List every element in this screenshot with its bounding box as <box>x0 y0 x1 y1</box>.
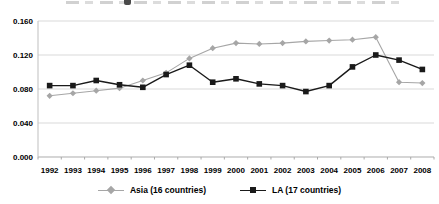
x-tick-label: 2008 <box>413 166 431 175</box>
legend-item-la: LA (17 countries) <box>240 185 341 195</box>
y-tick-label: 0.000 <box>13 153 34 162</box>
asia-data-point <box>349 37 355 43</box>
la-data-point <box>350 64 356 70</box>
x-tick-label: 2003 <box>297 166 315 175</box>
x-tick-label: 2005 <box>344 166 362 175</box>
chart-canvas: 0.0000.0400.0800.1200.160199219931994199… <box>0 0 439 204</box>
asia-data-point <box>326 37 332 43</box>
legend-label-la: LA (17 countries) <box>272 185 341 195</box>
la-data-point <box>326 83 332 89</box>
asia-data-point <box>47 93 53 99</box>
y-tick-label: 0.120 <box>13 51 34 60</box>
asia-data-point <box>70 90 76 96</box>
la-data-point <box>373 52 379 58</box>
la-data-point <box>280 83 286 89</box>
la-data-point <box>233 76 239 82</box>
x-tick-label: 2007 <box>390 166 408 175</box>
asia-data-point <box>256 41 262 47</box>
la-data-point <box>210 79 216 85</box>
asia-data-point <box>233 40 239 46</box>
x-tick-label: 2004 <box>320 166 338 175</box>
la-data-point <box>47 83 53 89</box>
la-data-point <box>70 83 76 89</box>
la-data-point <box>187 62 193 68</box>
asia-data-point <box>279 40 285 46</box>
asia-data-point <box>396 79 402 85</box>
x-tick-label: 2006 <box>367 166 385 175</box>
la-square-marker-icon <box>240 186 266 195</box>
y-axis-labels: 0.0000.0400.0800.1200.160 <box>13 17 34 162</box>
x-tick-label: 1995 <box>111 166 129 175</box>
y-tick-label: 0.040 <box>13 119 34 128</box>
x-tick-label: 2000 <box>227 166 245 175</box>
chart-legend: Asia (16 countries) LA (17 countries) <box>0 181 439 199</box>
series-la <box>47 52 425 94</box>
la-data-point <box>163 72 169 78</box>
asia-data-point <box>373 34 379 40</box>
asia-data-point <box>186 55 192 61</box>
asia-data-point <box>140 77 146 83</box>
asia-data-point <box>303 38 309 44</box>
x-tick-label: 1994 <box>87 166 105 175</box>
x-tick-label: 1992 <box>41 166 59 175</box>
x-tick-label: 1998 <box>181 166 199 175</box>
asia-data-point <box>210 45 216 51</box>
x-axis-labels: 1992199319941995199619971998199920002001… <box>41 166 432 175</box>
chart-screenshot: 0.0000.0400.0800.1200.160199219931994199… <box>0 0 439 204</box>
la-data-point <box>256 81 262 87</box>
la-data-point <box>303 89 309 95</box>
y-tick-label: 0.080 <box>13 85 34 94</box>
la-data-point <box>396 57 402 63</box>
legend-item-asia: Asia (16 countries) <box>98 185 206 195</box>
la-data-point <box>420 67 426 73</box>
x-tick-label: 1993 <box>64 166 82 175</box>
legend-label-asia: Asia (16 countries) <box>130 185 206 195</box>
x-tick-label: 1997 <box>157 166 175 175</box>
la-data-point <box>117 82 123 88</box>
la-data-point <box>93 78 99 84</box>
x-tick-label: 1999 <box>204 166 222 175</box>
la-data-point <box>140 85 146 91</box>
y-tick-label: 0.160 <box>13 17 34 26</box>
x-tick-label: 1996 <box>134 166 152 175</box>
x-tick-label: 2001 <box>250 166 268 175</box>
asia-data-point <box>419 80 425 86</box>
asia-diamond-marker-icon <box>98 186 124 195</box>
x-tick-label: 2002 <box>274 166 292 175</box>
